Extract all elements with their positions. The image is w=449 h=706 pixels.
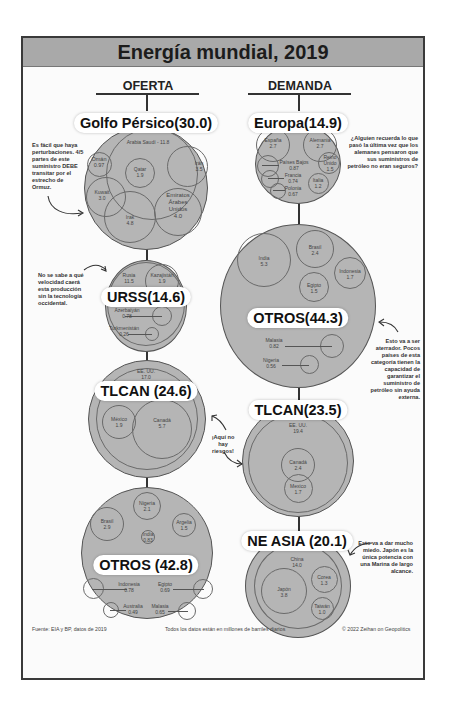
label-corea: Corea1.3 <box>317 574 331 586</box>
label-indonesia-supply: Indonesia0.78 <box>118 581 140 593</box>
label-reino-unido: Reino Unido1.5 <box>322 154 338 172</box>
note-golfo: Es fácil que haya perturbaciones. 4/5 pa… <box>32 142 84 191</box>
arrow-otros-demand-icon <box>378 318 400 334</box>
group-label-urss: URSS(14.6) <box>101 287 191 307</box>
label-egipto-supply: Egipto0.69 <box>158 581 172 593</box>
label-francia: Francia0.74 <box>285 172 302 184</box>
label-kazajistan: Kazajistán1.9 <box>150 272 173 284</box>
label-polonia: Polonia0.67 <box>285 185 302 197</box>
label-japon: Japón3.8 <box>277 586 291 598</box>
footer-units: Todos los datos están en millones de bar… <box>165 626 285 632</box>
label-irak: Irak4.8 <box>126 214 134 226</box>
bubble-canada-supply <box>132 399 192 459</box>
demand-connector <box>298 93 300 111</box>
footer-source: Fuente: EIA y BP, datos de 2019 <box>32 626 107 632</box>
label-rusia: Rusia11.5 <box>123 272 136 284</box>
leader-paises-bajos <box>262 165 279 166</box>
group-label-otros-demand: OTROS(44.3) <box>247 308 348 328</box>
label-brasil-supply: Brasil2.9 <box>101 518 114 530</box>
demand-spine-3 <box>298 515 300 531</box>
label-india-supply: India0.83 <box>143 531 154 543</box>
label-indonesia-demand: Indonesia1.7 <box>339 268 361 280</box>
label-paises-bajos: Países Bajos0.87 <box>279 159 308 171</box>
label-brasil-demand: Brasil2.4 <box>309 244 322 256</box>
bubble-polonia <box>270 183 286 199</box>
group-label-tlcan-demand: TLCAN(23.5) <box>248 400 347 420</box>
arrow-urss-icon <box>84 262 110 274</box>
label-mexico-demand: Mexico1.7 <box>290 483 306 495</box>
leader-malasia <box>168 611 188 612</box>
note-otros-demand: Esto va a ser aterrador. Pocos países de… <box>360 338 420 401</box>
label-italia: Italia1.2 <box>313 177 324 189</box>
leader-francia <box>268 178 284 179</box>
label-argelia-supply: Argelia1.5 <box>176 519 192 531</box>
demand-header: DEMANDA <box>248 79 352 93</box>
label-malasia-demand: Malasia0.82 <box>265 337 282 349</box>
arrow-tlcan-up-icon <box>210 414 230 432</box>
label-arabia-saudi: Arabia Saudí - 11.8 <box>127 139 170 145</box>
label-eeuu-demand: EE. UU.19.4 <box>289 422 307 434</box>
label-espana: España2.7 <box>265 137 282 149</box>
leader-egipto <box>173 589 204 590</box>
label-azerbaiyan: Azerbaiyán0.78 <box>114 307 139 319</box>
supply-header: OFERTA <box>96 79 200 93</box>
group-label-otros-supply: OTROS (42.8) <box>93 555 198 575</box>
note-urss: No se sabe a qué velocidad caerá esta pr… <box>38 272 88 307</box>
label-mexico-supply: México1.9 <box>111 416 127 428</box>
label-qatar: Qatar1.9 <box>134 166 147 178</box>
label-malasia-supply: Malasia0.65 <box>151 603 168 615</box>
label-egipto-demand: Egipto1.5 <box>307 282 321 294</box>
label-canada-supply: Canadá5.7 <box>153 417 171 429</box>
group-label-neasia: NE ASIA (20.1) <box>241 531 353 551</box>
chart-title: Energía mundial, 2019 <box>23 38 423 67</box>
label-canada-demand: Canadá2.4 <box>289 459 307 471</box>
group-label-tlcan-supply: TLCAN (24.6) <box>94 381 197 401</box>
note-europa: ¿Alguien recuerda lo que pasó la última … <box>346 135 418 170</box>
group-label-europa: Europa(14.9) <box>248 113 348 133</box>
label-india-demand: India5.3 <box>259 255 270 267</box>
label-kuwait: Kuwait3.0 <box>94 189 109 201</box>
group-label-golfo: Golfo Pérsico(30.0) <box>74 113 218 133</box>
label-australia-supply: Australia0.49 <box>123 603 142 615</box>
label-eau: Emiratos Árabes Unidos4.0 <box>163 192 193 220</box>
label-taiwan: Taiwán1.0 <box>314 603 330 615</box>
leader-nigeria-demand <box>282 365 309 366</box>
label-nigeria-demand: Nigeria0.56 <box>263 357 279 369</box>
label-china: China14.0 <box>290 556 303 568</box>
leader-malasia-demand <box>285 346 332 347</box>
leader-polonia <box>273 190 285 191</box>
label-alemania: Alemania2.7 <box>310 137 331 149</box>
label-eeuu-supply: EE. UU.17.0 <box>137 368 155 380</box>
label-nigeria-supply: Nigeria2.1 <box>139 500 155 512</box>
label-turkmenistan: Turkmenistán0.26 <box>109 325 139 337</box>
arrow-neasia-icon <box>346 542 374 558</box>
arrow-tlcan-down-icon <box>222 452 244 468</box>
arrow-golfo-icon <box>46 196 86 218</box>
footer-copyright: © 2022 Zeihan on Geopolitics <box>342 626 410 632</box>
label-oman: Omán0.97 <box>92 156 107 168</box>
supply-connector <box>146 93 148 111</box>
label-iran: Irán3.5 <box>195 160 204 172</box>
